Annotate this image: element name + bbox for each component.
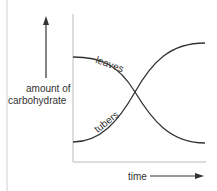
y-label-line2: carbohydrate [8, 95, 66, 106]
y-arrow-icon [43, 16, 49, 78]
x-label: time [128, 171, 147, 182]
x-arrow-icon [150, 173, 204, 179]
leaves-curve [73, 57, 205, 143]
y-label-line1: amount of [26, 83, 70, 94]
